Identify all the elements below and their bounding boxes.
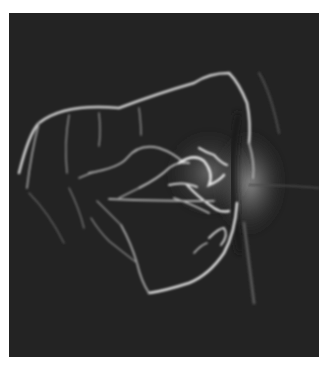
angiogram-vessels [9,13,319,357]
angiogram-image [9,13,319,357]
image-caption: Grayscale retinal angiography image show… [0,0,1,1]
